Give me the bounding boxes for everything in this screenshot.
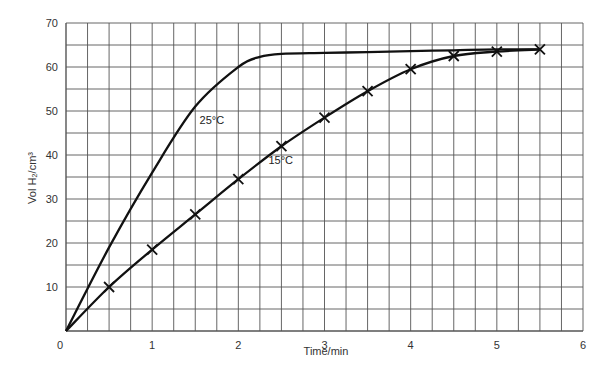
y-tick-label: 10 bbox=[46, 281, 58, 293]
y-axis-ticks: 10203040506070 bbox=[46, 17, 58, 293]
series-lines bbox=[66, 44, 545, 331]
y-tick-label: 50 bbox=[46, 105, 58, 117]
y-tick-label: 70 bbox=[46, 17, 58, 29]
origin-label: 0 bbox=[57, 339, 63, 351]
series-label: 15°C bbox=[268, 154, 293, 166]
x-tick-label: 1 bbox=[149, 339, 155, 351]
x-tick-label: 4 bbox=[408, 339, 414, 351]
x-axis-ticks: 123456 bbox=[149, 339, 586, 351]
y-tick-label: 30 bbox=[46, 193, 58, 205]
y-axis-label: Vol H₂/cm³ bbox=[26, 152, 38, 204]
y-tick-label: 40 bbox=[46, 149, 58, 161]
series-label: 25°C bbox=[200, 114, 225, 126]
x-axis-label: Time/min bbox=[304, 345, 349, 357]
y-tick-label: 60 bbox=[46, 61, 58, 73]
chart: 10203040506070 123456 0 Time/min Vol H₂/… bbox=[0, 0, 611, 381]
x-tick-label: 6 bbox=[580, 339, 586, 351]
x-tick-label: 5 bbox=[494, 339, 500, 351]
x-tick-label: 2 bbox=[235, 339, 241, 351]
y-tick-label: 20 bbox=[46, 237, 58, 249]
series-labels: 25°C15°C bbox=[200, 114, 294, 166]
grid bbox=[66, 23, 583, 331]
